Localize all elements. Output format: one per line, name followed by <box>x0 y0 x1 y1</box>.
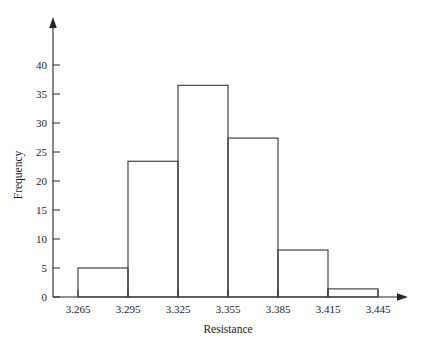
x-axis-title: Resistance <box>203 323 252 335</box>
y-tick-label-35: 35 <box>36 88 48 100</box>
y-axis-title: Frequency <box>12 150 25 199</box>
y-tick-label-10: 10 <box>36 233 48 245</box>
x-tick-label-3325: 3.325 <box>166 303 191 315</box>
x-tick-label-3265: 3.265 <box>66 303 91 315</box>
y-tick-label-25: 25 <box>36 146 48 158</box>
plot-background <box>0 0 422 346</box>
y-tick-label-20: 20 <box>36 175 48 187</box>
x-tick-label-3415: 3.415 <box>316 303 341 315</box>
histogram-figure: 0 5 10 15 20 25 30 35 40 3.265 3.295 3.3… <box>0 0 422 346</box>
x-tick-label-3385: 3.385 <box>266 303 291 315</box>
y-tick-label-30: 30 <box>36 117 48 129</box>
histogram-svg: 0 5 10 15 20 25 30 35 40 3.265 3.295 3.3… <box>0 0 422 346</box>
y-tick-label-5: 5 <box>42 262 48 274</box>
x-tick-label-3295: 3.295 <box>116 303 141 315</box>
x-tick-label-3445: 3.445 <box>366 303 391 315</box>
y-tick-label-15: 15 <box>36 204 48 216</box>
y-tick-label-0: 0 <box>42 291 48 303</box>
x-tick-label-3355: 3.355 <box>216 303 241 315</box>
y-tick-label-40: 40 <box>36 59 48 71</box>
